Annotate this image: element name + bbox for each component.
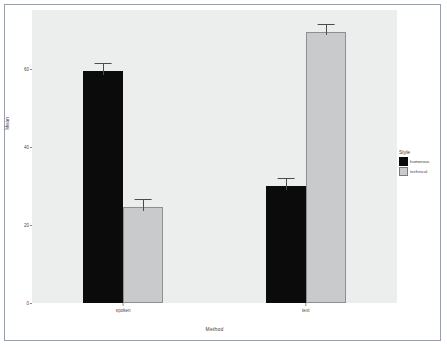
y-tick-label: 20 xyxy=(24,222,32,227)
x-tick-label: text xyxy=(302,308,309,313)
legend-item-humorous[interactable]: humorous xyxy=(399,157,443,166)
bar-spoken-humorous xyxy=(83,71,123,303)
error-bar-cap-spoken-technical xyxy=(135,199,152,200)
legend-swatch-icon xyxy=(399,157,408,166)
error-bar-text-humorous xyxy=(286,178,287,190)
y-tick-label: 60 xyxy=(24,66,32,71)
legend-item-label: humorous xyxy=(410,159,430,164)
x-tick-mark xyxy=(123,303,124,306)
chart-screenshot: Mean 0204060spokentext Method Style humo… xyxy=(0,0,447,347)
legend-title: Style xyxy=(399,149,443,155)
error-bar-spoken-technical xyxy=(143,199,144,212)
legend-swatch-icon xyxy=(399,167,408,176)
legend-item-technical[interactable]: technical xyxy=(399,167,443,176)
error-bar-cap-spoken-humorous xyxy=(95,63,112,64)
error-bar-spoken-humorous xyxy=(103,63,104,75)
y-axis-title-wrap: Mean xyxy=(18,10,19,303)
bar-text-humorous xyxy=(266,186,306,303)
y-tick-label: 0 xyxy=(26,301,32,306)
error-bar-text-technical xyxy=(326,24,327,36)
plot-panel: 0204060spokentext xyxy=(32,10,397,303)
x-tick-label: spoken xyxy=(116,308,131,313)
x-axis-tick-spoken: spoken xyxy=(116,303,131,313)
legend: Style humoroustechnical xyxy=(399,149,443,177)
error-bar-cap-text-technical xyxy=(317,24,334,25)
error-bar-cap-text-humorous xyxy=(277,178,294,179)
y-axis-title: Mean xyxy=(4,117,10,130)
x-tick-mark xyxy=(305,303,306,306)
legend-item-label: technical xyxy=(410,169,427,174)
x-axis-title: Method xyxy=(32,326,397,332)
bar-text-technical xyxy=(306,32,346,304)
y-tick-label: 40 xyxy=(24,144,32,149)
bar-spoken-technical xyxy=(123,207,163,303)
x-axis-tick-text: text xyxy=(302,303,309,313)
legend-items: humoroustechnical xyxy=(399,157,443,176)
